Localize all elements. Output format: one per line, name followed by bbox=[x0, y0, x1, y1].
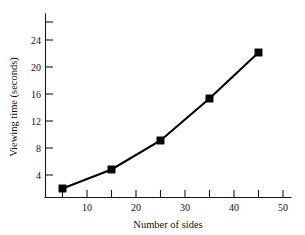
x-axis-title: Number of sides bbox=[133, 219, 202, 230]
y-tick-label-24: 24 bbox=[31, 35, 41, 46]
y-tick-label-16: 16 bbox=[31, 89, 41, 100]
line-chart: 24 20 16 12 8 4 10 20 30 40 50 bbox=[0, 0, 305, 235]
x-tick-label-10: 10 bbox=[82, 202, 92, 213]
data-point-2 bbox=[108, 166, 115, 173]
data-point-5 bbox=[255, 49, 262, 56]
y-axis-ticks bbox=[46, 22, 54, 175]
data-point-4 bbox=[206, 95, 213, 102]
series-markers bbox=[59, 49, 262, 192]
y-tick-label-4: 4 bbox=[36, 170, 41, 181]
y-tick-label-8: 8 bbox=[36, 143, 41, 154]
x-tick-label-40: 40 bbox=[229, 202, 239, 213]
series-line-viewing-time bbox=[63, 53, 259, 189]
data-point-3 bbox=[157, 137, 164, 144]
y-axis-tick-labels: 24 20 16 12 8 4 bbox=[31, 35, 41, 181]
x-tick-label-30: 30 bbox=[180, 202, 190, 213]
chart-page: 24 20 16 12 8 4 10 20 30 40 50 bbox=[0, 0, 305, 235]
x-axis-ticks bbox=[63, 190, 284, 198]
data-point-1 bbox=[59, 185, 66, 192]
y-tick-label-20: 20 bbox=[31, 62, 41, 73]
y-tick-label-12: 12 bbox=[31, 116, 41, 127]
x-tick-label-20: 20 bbox=[131, 202, 141, 213]
y-axis-title: Viewing time (seconds) bbox=[8, 57, 20, 157]
x-tick-label-50: 50 bbox=[278, 202, 288, 213]
x-axis-tick-labels: 10 20 30 40 50 bbox=[82, 202, 288, 213]
